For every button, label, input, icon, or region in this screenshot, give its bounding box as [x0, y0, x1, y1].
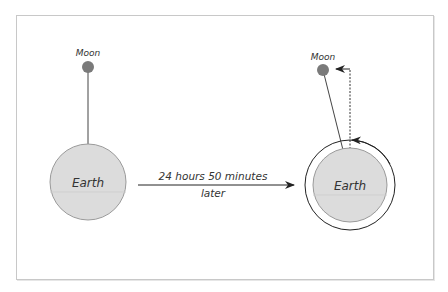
tidal-day-diagram: Moon Earth 24 hours 50 minutes later Moo…: [0, 0, 448, 292]
left-moon-label: Moon: [76, 48, 101, 58]
right-moon: [317, 64, 329, 76]
time-label-line1: 24 hours 50 minutes: [159, 170, 268, 182]
right-moon-label: Moon: [311, 52, 336, 62]
right-scene: Moon Earth: [305, 52, 395, 230]
left-moon: [82, 61, 94, 73]
time-label-line2: later: [201, 187, 226, 199]
left-earth-label: Earth: [72, 176, 104, 190]
left-scene: Moon Earth: [50, 48, 126, 220]
right-tether-line: [323, 70, 343, 150]
right-earth-label: Earth: [334, 179, 366, 193]
transition-arrow: 24 hours 50 minutes later: [138, 170, 294, 199]
